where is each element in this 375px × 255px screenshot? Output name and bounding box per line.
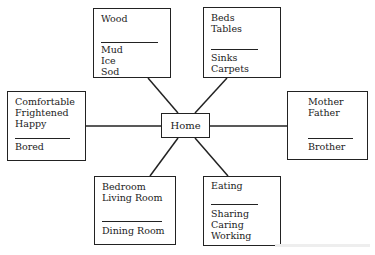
node-feelings: Comfortable Frightened Happy Bored <box>7 91 86 161</box>
item: Carpets <box>211 63 249 74</box>
item: Living Room <box>102 192 163 203</box>
node-above-list: Eating <box>211 180 243 191</box>
connector-top-left <box>148 78 178 113</box>
item: Happy <box>15 118 75 129</box>
item: Bedroom <box>102 181 163 192</box>
node-materials: Wood Mud Ice Sod <box>93 8 171 78</box>
scan-artifact <box>275 244 370 247</box>
connector-top-right <box>195 78 227 113</box>
item: Sinks <box>211 52 249 63</box>
center-node-home: Home <box>161 113 210 138</box>
divider <box>101 42 158 43</box>
divider <box>15 138 70 139</box>
divider <box>102 221 162 222</box>
item: Beds <box>211 12 242 23</box>
node-activities: Eating Sharing Caring Working <box>203 176 281 246</box>
node-family: Mother Father Brother <box>287 91 368 160</box>
node-above-list: Comfortable Frightened Happy <box>15 96 75 129</box>
item: Ice <box>101 55 123 66</box>
item: Comfortable <box>15 96 75 107</box>
node-below-list: Mud Ice Sod <box>101 44 123 77</box>
item: Sod <box>101 66 123 77</box>
node-above-list: Mother Father <box>308 96 344 118</box>
node-below-list: Sharing Caring Working <box>211 208 251 241</box>
node-furnishings: Beds Tables Sinks Carpets <box>203 7 281 78</box>
node-below-list: Dining Room <box>102 225 165 236</box>
node-above-list: Beds Tables <box>211 12 242 34</box>
item: Tables <box>211 23 242 34</box>
item: Brother <box>308 141 345 152</box>
divider <box>211 204 258 205</box>
item: Bored <box>15 141 44 152</box>
node-rooms: Bedroom Living Room Dining Room <box>94 176 176 245</box>
item: Working <box>211 230 251 241</box>
item: Mud <box>101 44 123 55</box>
item: Sharing <box>211 208 251 219</box>
item: Father <box>308 107 344 118</box>
item: Dining Room <box>102 225 165 236</box>
item: Frightened <box>15 107 75 118</box>
node-above-list: Bedroom Living Room <box>102 181 163 203</box>
item: Caring <box>211 219 251 230</box>
divider <box>308 138 353 139</box>
node-below-list: Brother <box>308 141 345 152</box>
connector-bottom-left <box>150 138 178 176</box>
item: Mother <box>308 96 344 107</box>
item: Eating <box>211 180 243 191</box>
center-label: Home <box>170 120 200 131</box>
node-above-list: Wood <box>101 13 128 24</box>
connector-bottom-right <box>195 138 228 176</box>
item: Wood <box>101 13 128 24</box>
node-below-list: Bored <box>15 141 44 152</box>
node-below-list: Sinks Carpets <box>211 52 249 74</box>
divider <box>211 49 258 50</box>
